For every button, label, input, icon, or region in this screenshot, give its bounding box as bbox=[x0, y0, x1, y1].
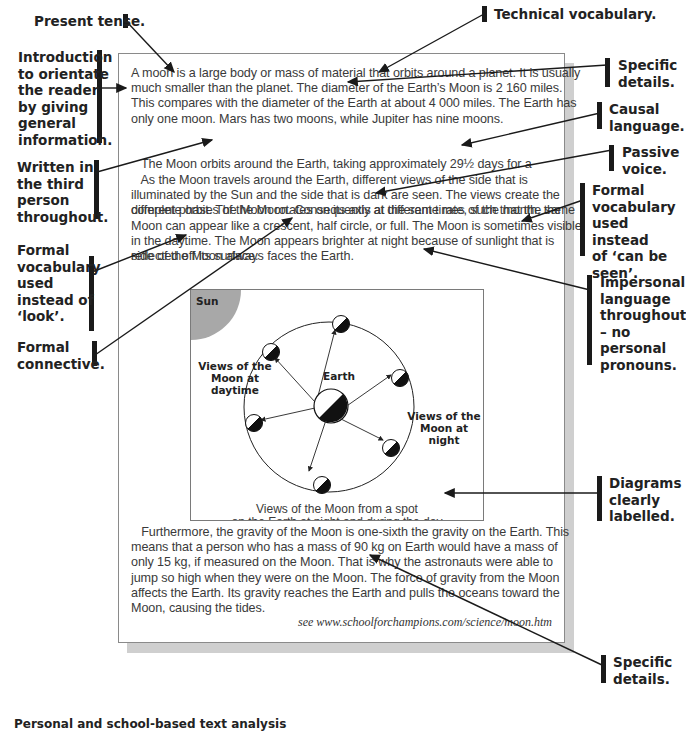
bar-causal-language bbox=[597, 102, 602, 129]
annotation-present-tense: Present tense. bbox=[34, 13, 145, 30]
annotation-passive-voice: Passivevoice. bbox=[622, 144, 679, 177]
annotation-formal-vocab-seen: Formalvocabulary used insteadof ‘can be … bbox=[592, 182, 679, 281]
annotation-diagrams-labelled: Diagramsclearly labelled. bbox=[609, 475, 681, 525]
annotation-causal-language: Causallanguage. bbox=[609, 101, 685, 134]
annotation-impersonal-language: Impersonallanguage throughout– no person… bbox=[600, 274, 686, 373]
bar-impersonal-language bbox=[587, 275, 592, 365]
annotation-formal-vocab-look: Formalvocabulary usedinstead of ‘look’. bbox=[17, 242, 101, 325]
bar-technical-vocabulary bbox=[482, 6, 487, 22]
annotation-formal-connective: Formalconnective. bbox=[17, 339, 105, 372]
footer-heading-partial: Personal and school-based text analysis bbox=[14, 717, 286, 731]
bar-formal-vocab-seen bbox=[580, 183, 585, 256]
annotation-introduction: Introductionto orientate the readerby gi… bbox=[18, 49, 112, 148]
bar-specific-details-bottom bbox=[601, 655, 606, 683]
annotation-third-person: Written inthe third personthroughout. bbox=[17, 159, 108, 225]
annotation-specific-details-top: Specificdetails. bbox=[618, 57, 677, 90]
annotation-technical-vocabulary: Technical vocabulary. bbox=[494, 6, 656, 23]
bar-diagrams-labelled bbox=[597, 476, 602, 521]
bar-specific-details-top bbox=[605, 58, 610, 87]
bar-passive-voice bbox=[609, 145, 614, 171]
annotation-specific-details-bottom: Specificdetails. bbox=[613, 654, 672, 687]
